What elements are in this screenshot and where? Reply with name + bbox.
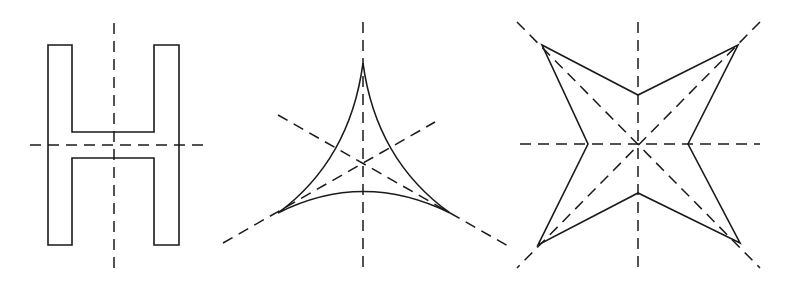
triangle-diagonal-axis-2 — [223, 122, 435, 243]
symmetry-diagram — [0, 0, 788, 282]
curved-triangle-outline — [278, 63, 450, 213]
figure-h-shape — [30, 23, 210, 268]
figure-curved-triangle — [223, 22, 508, 268]
figure-four-point-star — [517, 22, 760, 268]
